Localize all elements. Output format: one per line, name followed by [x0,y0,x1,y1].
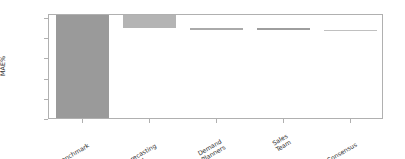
x-tick-label-text: Benchmark [56,142,90,159]
bar-demand-planners [190,28,244,30]
bar-consensus [324,30,378,31]
x-tick-mark [82,119,83,123]
x-tick-label-text: Forecasting Model [122,142,160,159]
x-tick-mark [149,119,150,123]
plot-area [49,15,382,118]
x-tick-label: Demand Planners [219,124,250,150]
x-tick-mark [216,119,217,123]
x-tick-label: Forecasting Model [153,124,191,155]
bar-sales-team [257,28,311,30]
x-tick-label-text: Consensus [325,141,358,159]
x-tick-label-text: Sales Team [270,132,292,153]
x-tick-label-text: Demand Planners [196,137,227,159]
y-axis-label: MAE% [0,56,7,76]
x-tick-mark [350,119,351,123]
x-tick-label: Sales Team [285,124,307,145]
x-tick-label: Consensus [354,124,387,147]
x-tick-mark [283,119,284,123]
y-tick-mark [44,119,48,120]
x-tick-label: Benchmark [86,124,120,148]
plot-axes [48,14,383,119]
chart-figure: MAE% 0%10%20%30%40%50% BenchmarkForecast… [0,0,405,159]
bar-benchmark [56,15,110,118]
bar-forecasting-model [123,15,177,28]
